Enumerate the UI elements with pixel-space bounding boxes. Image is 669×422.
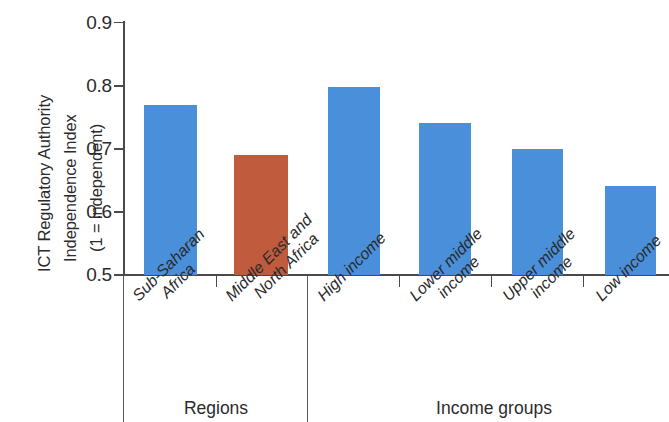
group-label-regions: Regions [184, 398, 248, 419]
group-label-income-groups: Income groups [436, 398, 552, 419]
bar-chart: ICT Regulatory Authority Independence In… [0, 0, 669, 422]
x-axis-tick [399, 276, 400, 287]
group-separator-left [123, 276, 124, 422]
group-separator-middle [307, 276, 308, 422]
x-axis-tick [583, 276, 584, 287]
x-axis-tick [216, 276, 217, 287]
x-axis-tick [491, 276, 492, 287]
